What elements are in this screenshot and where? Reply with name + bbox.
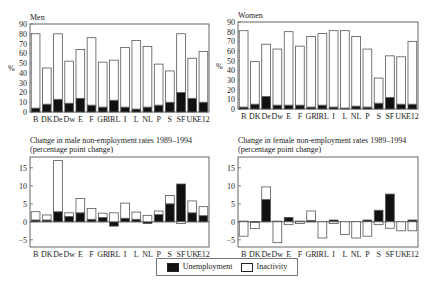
inactivity-bar [188,201,197,213]
y-tick-label: 40 [227,66,235,75]
unemployment-bar [54,212,63,222]
x-tick-label: E [286,112,291,121]
chart-title: Change in male non-employment rates 1989… [30,136,192,145]
unemployment-bar [188,213,197,222]
unemployment-bar [165,204,174,222]
inactivity-bar [65,213,74,217]
x-tick-label: NL [351,112,362,121]
y-tick-label: 0 [231,105,235,114]
x-tick-label: I [332,250,335,259]
unemployment-bar [318,105,327,109]
unemployment-bar [76,213,85,222]
inactivity-bar [318,222,327,238]
inactivity-bar [188,58,197,98]
inactivity-bar [87,38,96,105]
x-tick-label: P [365,250,370,259]
unemployment-bar [42,104,51,112]
unemployment-bar [98,107,107,112]
y-tick-label: 10 [227,95,235,104]
unemployment-bar [154,105,163,112]
inactivity-bar [307,37,316,108]
inactivity-bar [352,37,361,107]
x-tick-label: NL [351,250,362,259]
inactivity-bar [121,203,130,218]
inactivity-bar [154,64,163,105]
y-tick-label: 5 [23,200,27,209]
unemployment-bar [374,103,383,109]
x-tick-label: IRL [107,115,120,124]
x-tick-label: DK [41,250,53,259]
legend-item-unemployment: Unemployment [167,262,233,272]
y-tick-label: 50 [227,57,235,66]
x-tick-label: De [53,250,63,259]
y-tick-label: 80 [19,30,27,39]
x-tick-label: DK [41,115,53,124]
inactivity-bar [132,41,141,109]
x-tick-label: SF [385,112,394,121]
chart-title: Women [238,11,263,20]
x-tick-label: Dw [272,112,284,121]
y-axis-label: % [8,64,15,73]
x-tick-label: L [134,115,139,124]
inactivity-bar [408,41,417,104]
x-tick-label: B [33,115,38,124]
y-tick-label: 80 [227,28,235,37]
inactivity-bar [284,222,293,225]
men-levels-chart: Men0102030405060708090%BDKDeDwEFGRIRLILN… [8,13,210,124]
x-tick-label: S [376,250,380,259]
unemployment-bar [110,222,119,226]
x-tick-label: SF [385,250,394,259]
unemployment-bar [397,104,406,109]
inactivity-bar [385,222,394,228]
x-tick-label: Dw [63,115,75,124]
y-tick-label: 90 [19,20,27,29]
y-tick-label: 70 [227,37,235,46]
inactivity-bar [262,187,271,200]
y-tick-label: 5 [231,200,235,209]
inactivity-bar [110,60,119,100]
inactivity-bar [143,46,152,107]
unemployment-bar [199,216,208,222]
unemployment-bar [98,217,107,221]
unemployment-bar [110,100,119,112]
unemployment-bar [250,104,259,109]
x-tick-label: De [53,115,63,124]
unemployment-bar [132,109,141,112]
x-tick-label: IRL [107,250,120,259]
y-tick-label: 10 [19,182,27,191]
inactivity-bar [121,47,130,107]
inactivity-bar [42,68,51,104]
y-tick-label: 60 [227,47,235,56]
unemployment-bar [374,210,383,222]
inactivity-bar [110,213,119,222]
y-tick-label: 0 [23,218,27,227]
inactivity-bar [352,222,361,238]
women-levels-chart: Women0102030405060708090%BDKDeDwEFGRIRLI… [216,11,419,121]
x-tick-label: E [78,115,83,124]
unemployment-bar [188,98,197,112]
x-tick-label: L [342,112,347,121]
chart-subtitle: (percentage point change) [30,145,113,154]
y-tick-label: 0 [231,218,235,227]
x-tick-label: I [332,112,335,121]
inactivity-bar [397,57,406,104]
x-tick-label: SF [177,115,186,124]
unemployment-bar [31,108,40,112]
inactivity-bar [76,198,85,212]
x-tick-label: DK [249,112,261,121]
inactivity-bar [340,222,349,235]
chart-legend: Unemployment Inactivity [156,258,298,276]
y-tick-label: 10 [19,98,27,107]
y-tick-label: 0 [23,108,27,117]
inactivity-swatch-icon [241,263,253,272]
inactivity-bar [98,62,107,107]
inactivity-bar [239,31,248,107]
unemployment-bar [65,103,74,112]
y-tick-label: −5 [226,236,235,245]
unemployment-bar [385,97,394,109]
unemployment-bar [177,92,186,112]
inactivity-bar [143,215,152,221]
inactivity-bar [363,49,372,107]
inactivity-bar [295,46,304,105]
y-tick-label: −5 [18,236,27,245]
